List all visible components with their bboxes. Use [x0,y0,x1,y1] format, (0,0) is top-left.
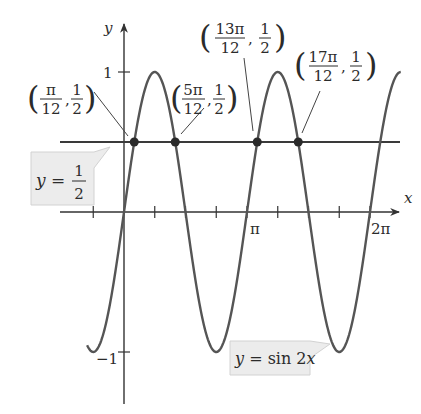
callout-y-sin: y = sin 2x [230,341,330,375]
p4-den: 12 [313,67,332,85]
y-tick-label-neg1: −1 [96,350,118,368]
point-label-p1: ( π 12 , 1 2 ) [27,79,96,118]
y-axis-label: y [103,19,113,37]
x-axis-label: x [404,189,413,207]
intersection-dot [253,138,262,147]
comma: , [207,91,212,109]
p3-den: 12 [220,39,239,57]
comma: , [65,91,70,109]
paren-right: ) [274,18,286,56]
x-tick-label-2pi: 2π [371,220,391,238]
paren-right: ) [365,46,377,84]
callout-y-half-lhs: y = [35,170,65,190]
p4-num: 17π [309,48,338,66]
p2-num: 5π [183,81,203,99]
p2-y-num: 1 [214,81,224,99]
callout-y-half-den: 2 [74,185,84,203]
p3-y-den: 2 [260,39,270,57]
point-label-p2: ( 5π 12 , 1 2 ) [170,79,238,118]
sine-chart: y = 1 2 y = sin 2x x y π 2π 1 −1 ( π [0,0,421,414]
intersection-dot [294,138,303,147]
p3-y-num: 1 [260,20,270,38]
x-tick-label-pi: π [250,220,260,238]
paren-left: ( [170,79,182,117]
leader-p4 [302,91,320,133]
paren-left: ( [294,46,306,84]
paren-left: ( [27,79,39,117]
point-label-p3: ( 13π 12 , 1 2 ) [199,18,286,57]
p2-den: 12 [183,100,202,118]
comma: , [248,30,253,48]
p2-y-den: 2 [214,100,224,118]
intersection-dot [171,138,180,147]
comma: , [341,58,346,76]
p4-y-num: 1 [351,48,361,66]
leader-p1 [94,92,128,136]
paren-right: ) [226,79,238,117]
p1-y-den: 2 [72,100,82,118]
paren-right: ) [84,79,96,117]
p1-y-num: 1 [72,81,82,99]
p1-num: π [46,81,56,99]
leader-p3 [244,58,253,131]
p3-num: 13π [216,20,245,38]
p4-y-den: 2 [351,67,361,85]
y-tick-label-1: 1 [103,64,113,82]
paren-left: ( [199,18,211,56]
point-label-p4: ( 17π 12 , 1 2 ) [294,46,377,85]
callout-y-sin-text: y = sin 2x [234,349,316,368]
p1-den: 12 [41,100,60,118]
callout-y-half: y = 1 2 [31,147,110,205]
callout-y-half-num: 1 [74,162,84,180]
intersection-dot [130,138,139,147]
